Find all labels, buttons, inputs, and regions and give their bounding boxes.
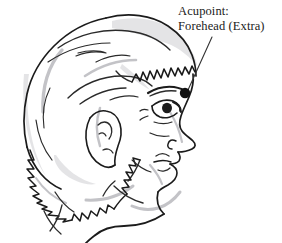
leader-line bbox=[188, 37, 212, 90]
acupoint-callout-label: Acupoint: Forehead (Extra) bbox=[178, 4, 282, 34]
acupoint-label-line-2: Forehead (Extra) bbox=[178, 19, 282, 34]
hair-ends-side bbox=[103, 158, 140, 196]
hair-strokes bbox=[36, 30, 170, 160]
hair-shading bbox=[23, 18, 197, 209]
head-profile-illustration: .ink { fill:none; stroke:#1b1b1b; stroke… bbox=[0, 0, 282, 243]
jaw-and-neck bbox=[55, 186, 164, 243]
ear bbox=[86, 111, 121, 167]
acupoint-label-line-1: Acupoint: bbox=[178, 4, 282, 19]
hair-ends bbox=[27, 150, 127, 234]
acupoint-marker[interactable] bbox=[180, 88, 190, 98]
acupoint-figure: .ink { fill:none; stroke:#1b1b1b; stroke… bbox=[0, 0, 282, 243]
nostril bbox=[168, 140, 176, 149]
lips bbox=[154, 154, 171, 171]
